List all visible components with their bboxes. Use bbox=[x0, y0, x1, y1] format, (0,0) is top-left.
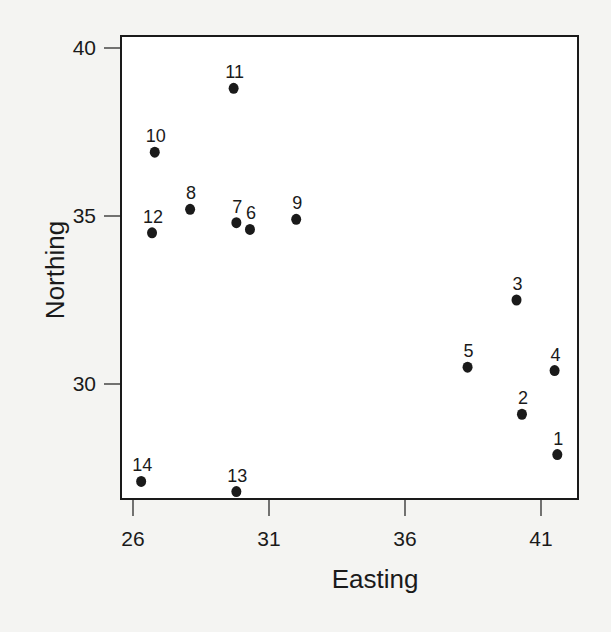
point-marker bbox=[517, 409, 527, 420]
data-point: 2 bbox=[517, 388, 528, 420]
point-label: 6 bbox=[246, 203, 256, 223]
x-axis: 26313641 bbox=[121, 499, 552, 550]
data-point: 9 bbox=[291, 193, 302, 225]
point-marker bbox=[231, 486, 241, 497]
point-label: 2 bbox=[518, 388, 528, 408]
point-label: 14 bbox=[132, 455, 152, 475]
plot-area bbox=[121, 36, 578, 499]
point-label: 13 bbox=[227, 466, 247, 486]
y-tick-label: 35 bbox=[73, 204, 96, 227]
x-axis-title: Easting bbox=[332, 564, 419, 594]
point-label: 4 bbox=[551, 345, 561, 365]
x-tick-label: 36 bbox=[393, 527, 416, 550]
point-label: 10 bbox=[146, 126, 166, 146]
x-tick-label: 41 bbox=[529, 527, 552, 550]
data-point: 3 bbox=[512, 274, 523, 306]
point-marker bbox=[245, 224, 255, 235]
point-marker bbox=[512, 295, 522, 306]
point-marker bbox=[136, 476, 146, 487]
point-marker bbox=[291, 214, 301, 225]
point-marker bbox=[552, 449, 562, 460]
y-tick-label: 40 bbox=[73, 36, 96, 59]
point-marker bbox=[185, 204, 195, 215]
scatter-chart: 303540 26313641 Easting Northing 1234567… bbox=[0, 0, 611, 632]
x-tick-label: 31 bbox=[257, 527, 280, 550]
x-tick-label: 26 bbox=[121, 527, 144, 550]
point-label: 1 bbox=[553, 429, 563, 449]
point-marker bbox=[147, 227, 157, 238]
data-point: 1 bbox=[552, 429, 563, 461]
point-marker bbox=[550, 365, 560, 376]
y-tick-label: 30 bbox=[73, 372, 96, 395]
point-label: 3 bbox=[513, 274, 523, 294]
data-point: 8 bbox=[185, 183, 196, 215]
y-axis: 303540 bbox=[73, 36, 121, 395]
data-point: 4 bbox=[550, 345, 561, 377]
point-label: 11 bbox=[225, 62, 244, 82]
point-label: 7 bbox=[232, 197, 242, 217]
data-point: 7 bbox=[231, 197, 242, 229]
point-label: 5 bbox=[464, 341, 474, 361]
point-label: 8 bbox=[186, 183, 196, 203]
y-axis-title: Northing bbox=[40, 221, 70, 319]
point-marker bbox=[463, 362, 473, 373]
point-label: 9 bbox=[292, 193, 302, 213]
data-point: 6 bbox=[245, 203, 256, 235]
point-marker bbox=[150, 147, 160, 158]
data-point: 5 bbox=[463, 341, 474, 373]
point-marker bbox=[231, 217, 241, 228]
point-marker bbox=[229, 83, 239, 94]
point-label: 12 bbox=[143, 207, 163, 227]
